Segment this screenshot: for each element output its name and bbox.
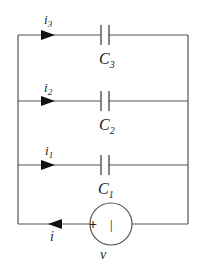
capacitor-label-c1: C1 (98, 180, 114, 200)
current-label-i3: i3 (44, 12, 53, 29)
branch-c3: i3 C3 (18, 12, 188, 70)
arrow-right-icon (41, 96, 55, 106)
plus-sign: + (89, 217, 97, 232)
current-label-i1: i1 (45, 143, 53, 160)
arrow-left-icon (48, 219, 62, 229)
source-current-label: i (50, 229, 54, 244)
branch-c1: i1 C1 (18, 143, 188, 200)
current-label-i2: i2 (44, 80, 53, 97)
minus-sign: | (110, 217, 113, 232)
arrow-right-icon (41, 160, 55, 170)
capacitor-label-c2: C2 (99, 116, 115, 136)
capacitor-label-c3: C3 (99, 50, 115, 70)
arrow-right-icon (41, 30, 55, 40)
source-voltage-label: v (100, 247, 107, 262)
circuit-diagram: i3 C3 i2 C2 i1 C1 + | i v (0, 0, 206, 271)
branch-c2: i2 C2 (18, 80, 188, 136)
voltage-source-branch: + | i v (18, 203, 188, 262)
